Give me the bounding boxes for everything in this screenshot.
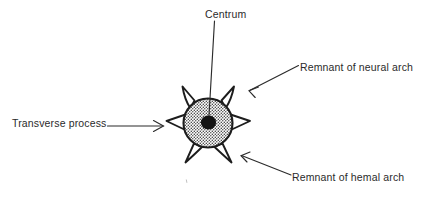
scan-artifact bbox=[186, 180, 187, 183]
label-remnant-of-hemal-arch: Remnant of hemal arch bbox=[292, 172, 404, 183]
figure-canvas: Centrum Remnant of neural arch Remnant o… bbox=[0, 0, 430, 198]
centrum-core bbox=[201, 116, 216, 130]
label-centrum: Centrum bbox=[205, 9, 246, 20]
label-remnant-of-neural-arch: Remnant of neural arch bbox=[300, 62, 413, 73]
hemal-arch-leader-arrow bbox=[241, 152, 291, 175]
transverse-process-leader-arrow bbox=[108, 121, 164, 132]
vertebra-diagram bbox=[0, 0, 430, 198]
neural-arch-leader-arrow bbox=[249, 66, 299, 98]
label-transverse-process: Transverse process bbox=[12, 118, 107, 129]
